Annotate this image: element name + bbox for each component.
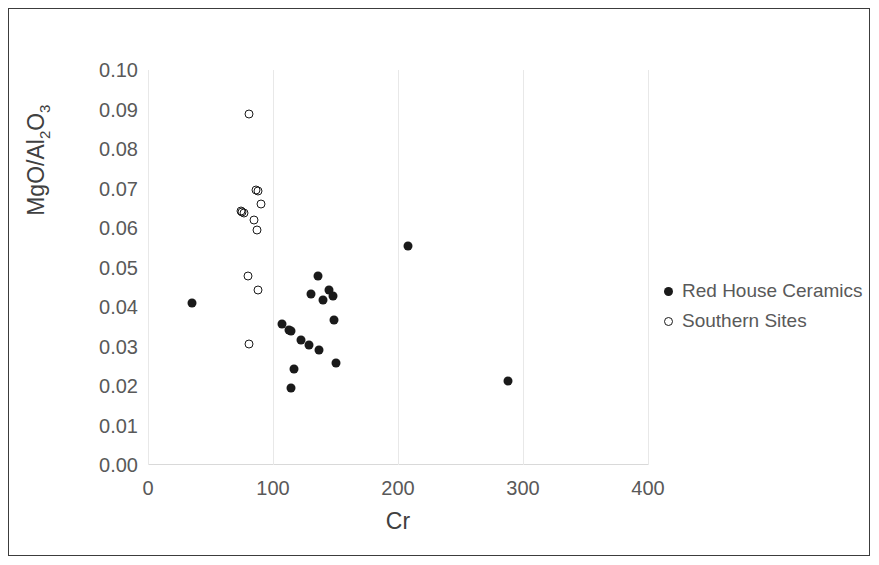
figure-container: MgO/Al2O3 0.000.010.020.030.040.050.060.… bbox=[0, 0, 879, 565]
y-tick-label: 0.04 bbox=[99, 297, 138, 317]
x-tick-label: 300 bbox=[506, 478, 539, 498]
y-tick-label: 0.03 bbox=[99, 337, 138, 357]
legend-item-label: Southern Sites bbox=[682, 310, 807, 332]
data-point-filled bbox=[504, 377, 513, 386]
data-point-open bbox=[250, 216, 259, 225]
data-point-open bbox=[252, 226, 261, 235]
data-point-filled bbox=[187, 299, 196, 308]
gridline-vertical bbox=[398, 70, 399, 465]
legend-item-label: Red House Ceramics bbox=[682, 280, 863, 302]
data-point-open bbox=[254, 186, 263, 195]
legend-filled-circle-icon bbox=[664, 287, 673, 296]
data-point-open bbox=[244, 272, 253, 281]
data-point-open bbox=[256, 199, 265, 208]
legend-open-circle-icon bbox=[664, 317, 673, 326]
data-point-filled bbox=[319, 295, 328, 304]
y-tick-label: 0.09 bbox=[99, 100, 138, 120]
data-point-filled bbox=[296, 335, 305, 344]
legend-item[interactable]: Southern Sites bbox=[664, 306, 864, 336]
y-tick-label: 0.07 bbox=[99, 179, 138, 199]
data-point-open bbox=[240, 208, 249, 217]
legend-item[interactable]: Red House Ceramics bbox=[664, 276, 864, 306]
x-tick-label: 100 bbox=[256, 478, 289, 498]
data-point-filled bbox=[331, 358, 340, 367]
data-point-filled bbox=[286, 384, 295, 393]
y-tick-label: 0.05 bbox=[99, 258, 138, 278]
data-point-filled bbox=[286, 327, 295, 336]
gridline-vertical bbox=[148, 70, 149, 465]
y-tick-label: 0.06 bbox=[99, 218, 138, 238]
data-point-filled bbox=[290, 365, 299, 374]
data-point-open bbox=[245, 109, 254, 118]
y-tick-label: 0.01 bbox=[99, 416, 138, 436]
y-tick-label: 0.10 bbox=[99, 60, 138, 80]
gridline-vertical bbox=[523, 70, 524, 465]
y-tick-label: 0.00 bbox=[99, 455, 138, 475]
chart-legend: Red House CeramicsSouthern Sites bbox=[664, 276, 864, 336]
plot-area bbox=[148, 70, 648, 465]
data-point-filled bbox=[330, 316, 339, 325]
y-axis-title-text: MgO/Al2O3 bbox=[23, 105, 49, 216]
x-axis-tick-labels: 0100200300400 bbox=[0, 478, 879, 508]
data-point-filled bbox=[404, 242, 413, 251]
data-point-open bbox=[245, 339, 254, 348]
x-tick-label: 0 bbox=[142, 478, 153, 498]
data-point-filled bbox=[306, 290, 315, 299]
gridline-vertical bbox=[648, 70, 649, 465]
x-axis-title: Cr bbox=[148, 508, 648, 535]
x-tick-label: 400 bbox=[631, 478, 664, 498]
data-point-filled bbox=[314, 271, 323, 280]
data-point-open bbox=[254, 286, 263, 295]
data-point-filled bbox=[305, 341, 314, 350]
y-tick-label: 0.08 bbox=[99, 139, 138, 159]
x-tick-label: 200 bbox=[381, 478, 414, 498]
data-point-filled bbox=[329, 291, 338, 300]
y-tick-label: 0.02 bbox=[99, 376, 138, 396]
y-axis-title: MgO/Al2O3 bbox=[23, 164, 53, 216]
data-point-filled bbox=[315, 346, 324, 355]
gridline-vertical bbox=[273, 70, 274, 465]
